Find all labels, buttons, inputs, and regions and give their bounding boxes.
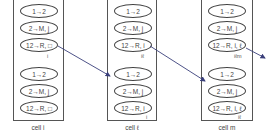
tag-1-top: i (47, 53, 48, 59)
oval-1-1: 1→2 (20, 4, 58, 18)
oval-2-3: 12→R, i (114, 38, 152, 52)
arrow-l-to-m (150, 46, 205, 81)
cell-m: 1→2 2→M, j 12→R, i, ℓ iℓm 1→2 2→M, j 12→… (201, 0, 253, 121)
oval-2-5: 2→M, j (114, 84, 152, 98)
oval-1-5: 2→M, j (20, 84, 58, 98)
oval-1-6: 12→R, □ (20, 101, 58, 115)
oval-1-3: 12→R, □ (20, 38, 58, 52)
oval-2-6: 12→R, i (114, 101, 152, 115)
arrow-i-to-l (58, 46, 110, 76)
cell-i: 1→2 2→M, j 12→R, □ i 1→2 2→M, j 12→R, □ (13, 0, 64, 121)
cell-label-m: cell m (202, 124, 252, 131)
oval-2-2: 2→M, j (114, 21, 152, 35)
oval-3-3: 12→R, i, ℓ (208, 38, 246, 52)
oval-3-1: 1→2 (208, 4, 246, 18)
oval-1-4: 1→2 (20, 67, 58, 81)
oval-3-2: 2→M, j (208, 21, 246, 35)
tag-2-bottom: i (146, 114, 147, 120)
tag-3-top: iℓm (234, 53, 242, 59)
oval-2-1: 1→2 (114, 4, 152, 18)
oval-3-5: 2→M, j (208, 84, 246, 98)
tag-3-bottom: iℓ (238, 114, 241, 120)
oval-2-4: 1→2 (114, 67, 152, 81)
cell-label-i: cell i (13, 124, 63, 131)
oval-3-4: 1→2 (208, 67, 246, 81)
cell-l: 1→2 2→M, j 12→R, i iℓ 1→2 2→M, j 12→R, i… (107, 0, 157, 121)
oval-1-2: 2→M, j (20, 21, 58, 35)
tag-2-top: iℓ (141, 53, 144, 59)
oval-3-6: 12→R, i, ℓ (208, 101, 246, 115)
cell-label-l: cell ℓ (107, 124, 157, 131)
